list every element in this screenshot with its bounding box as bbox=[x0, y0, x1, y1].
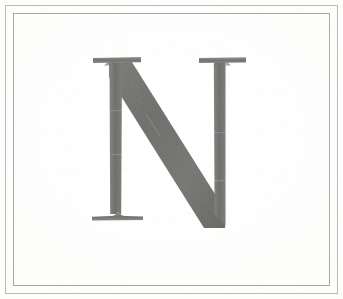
letter-specimen-plate: A large gray serif capital letter N cent… bbox=[0, 0, 343, 299]
letter-n-diagonal-stroke bbox=[109, 59, 225, 228]
letter-n-top-right-serif bbox=[199, 57, 246, 63]
letter-n-artwork bbox=[14, 14, 329, 285]
letter-n-right-stem bbox=[214, 60, 226, 226]
letter-n-left-stem bbox=[110, 60, 123, 214]
letter-n-top-left-serif bbox=[93, 57, 141, 63]
letterform-stage bbox=[14, 14, 329, 285]
letter-n-strokes bbox=[92, 57, 246, 228]
letter-n-foot-serif bbox=[92, 212, 143, 220]
